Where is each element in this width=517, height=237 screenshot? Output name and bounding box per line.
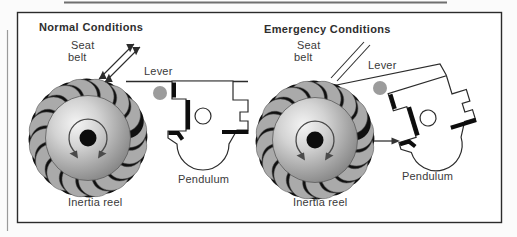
panel-title: Normal Conditions — [39, 21, 143, 33]
seat-belt-label: Seat — [297, 39, 320, 51]
lever-pivot-dot — [153, 86, 167, 100]
inertia-reel-label: Inertia reel — [293, 196, 347, 208]
inertia-reel-label: Inertia reel — [68, 196, 122, 208]
seat-belt-label: belt — [294, 51, 313, 63]
pendulum-label: Pendulum — [402, 170, 453, 182]
figure: Normal Conditions Seat belt Lever Pendul… — [0, 0, 517, 237]
lever-pivot-dot — [373, 81, 387, 95]
lever-label: Lever — [144, 65, 173, 77]
panel-title: Emergency Conditions — [264, 23, 391, 35]
seat-belt-label: Seat — [71, 39, 94, 51]
diagram-canvas: Normal Conditions Seat belt Lever Pendul… — [0, 0, 517, 237]
lever-label: Lever — [368, 59, 397, 71]
pendulum-label: Pendulum — [178, 173, 229, 185]
seat-belt-label: belt — [68, 51, 87, 63]
